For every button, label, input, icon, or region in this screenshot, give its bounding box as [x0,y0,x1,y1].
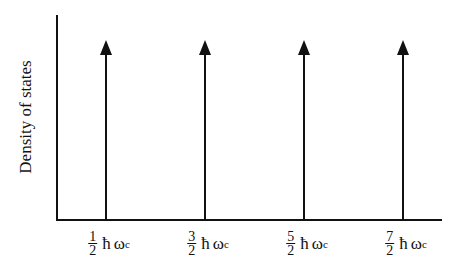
delta-arrow-3 [298,40,310,220]
x-tick-label-1: 12 ħ ωc [88,230,130,257]
y-axis-label: Density of states [16,60,36,173]
delta-arrow-2 [199,40,211,220]
x-tick-label-3: 52 ħ ωc [286,230,328,257]
x-tick-label-2: 32 ħ ωc [187,230,229,257]
delta-arrow-4 [397,40,409,220]
hbar-symbol: ħ [399,234,408,254]
x-tick-label-4: 72 ħ ωc [385,230,427,257]
delta-arrow-1 [100,40,112,220]
hbar-symbol: ħ [201,234,210,254]
hbar-symbol: ħ [300,234,309,254]
hbar-symbol: ħ [102,234,111,254]
dos-diagram [0,0,462,263]
